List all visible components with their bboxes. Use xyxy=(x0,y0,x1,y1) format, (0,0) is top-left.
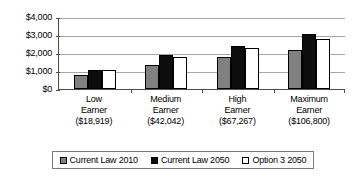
bar[interactable] xyxy=(288,50,302,89)
bar[interactable] xyxy=(145,65,159,89)
y-axis-tick-label: $3,000 xyxy=(26,31,52,40)
y-axis-tick-label: $2,000 xyxy=(26,49,52,58)
category-label-line: ($18,919) xyxy=(58,116,130,127)
bar-group-bars xyxy=(59,18,131,89)
bar-group-bars xyxy=(202,18,274,89)
y-axis-labels: $4,000$3,000$2,000$1,000$0 xyxy=(0,0,56,96)
legend-item[interactable]: Current Law 2010 xyxy=(60,156,138,165)
legend-item-label: Current Law 2010 xyxy=(70,156,138,165)
bar[interactable] xyxy=(302,34,316,89)
y-axis-tick xyxy=(56,90,60,91)
bar-groups xyxy=(59,18,345,89)
category-label-line: Earner xyxy=(58,105,130,116)
chart-legend: Current Law 2010Current Law 2050Option 3… xyxy=(52,151,314,169)
category-label-line: ($106,800) xyxy=(273,116,345,127)
category-label-line: Earner xyxy=(202,105,274,116)
bar-group xyxy=(59,18,131,89)
category-label-line: Earner xyxy=(273,105,345,116)
legend-swatch-icon xyxy=(151,157,158,164)
bar-group xyxy=(131,18,203,89)
x-axis-tick xyxy=(202,89,203,93)
legend-item-label: Current Law 2050 xyxy=(161,156,229,165)
bar[interactable] xyxy=(316,39,330,89)
plot-area xyxy=(58,18,345,90)
legend-item-label: Option 3 2050 xyxy=(252,156,306,165)
legend-item[interactable]: Current Law 2050 xyxy=(151,156,229,165)
legend-swatch-icon xyxy=(60,157,67,164)
bar-group-bars xyxy=(131,18,203,89)
category-label-line: Maximum xyxy=(273,94,345,105)
category-label-line: ($42,042) xyxy=(130,116,202,127)
x-axis-category-label: LowEarner($18,919) xyxy=(58,94,130,136)
category-label-line: High xyxy=(202,94,274,105)
x-axis-category-label: MaximumEarner($106,800) xyxy=(273,94,345,136)
bar-group xyxy=(202,18,274,89)
x-axis-category-label: MediumEarner($42,042) xyxy=(130,94,202,136)
bar[interactable] xyxy=(231,46,245,89)
category-label-line: Low xyxy=(58,94,130,105)
bar[interactable] xyxy=(173,57,187,89)
category-label-line: Medium xyxy=(130,94,202,105)
legend-item[interactable]: Option 3 2050 xyxy=(242,156,306,165)
category-label-line: ($67,267) xyxy=(202,116,274,127)
y-axis-tick-label: $1,000 xyxy=(26,67,52,76)
bar[interactable] xyxy=(102,70,116,89)
bar-group xyxy=(274,18,346,89)
legend-swatch-icon xyxy=(242,157,249,164)
x-axis-category-labels: LowEarner($18,919)MediumEarner($42,042)H… xyxy=(58,94,345,136)
bar[interactable] xyxy=(217,57,231,89)
bar[interactable] xyxy=(159,55,173,89)
y-axis-tick-label: $4,000 xyxy=(26,13,52,22)
category-label-line: Earner xyxy=(130,105,202,116)
bar[interactable] xyxy=(245,48,259,89)
x-axis-category-label: HighEarner($67,267) xyxy=(202,94,274,136)
y-axis-tick-label: $0 xyxy=(42,85,52,94)
bar[interactable] xyxy=(74,75,88,89)
bar-chart: $4,000$3,000$2,000$1,000$0 LowEarner($18… xyxy=(0,0,362,180)
bar-group-bars xyxy=(274,18,346,89)
x-axis-tick xyxy=(131,89,132,93)
x-axis-tick xyxy=(344,89,345,93)
x-axis-tick xyxy=(274,89,275,93)
bar[interactable] xyxy=(88,70,102,89)
